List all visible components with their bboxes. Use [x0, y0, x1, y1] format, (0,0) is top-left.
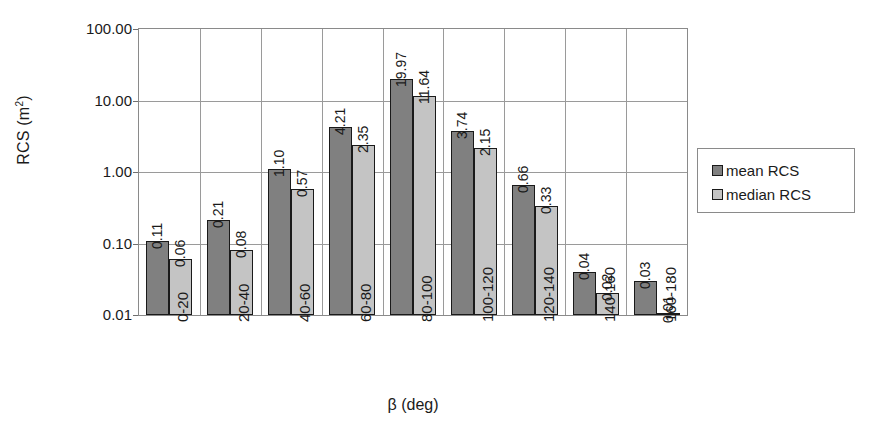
legend: mean RCSmedian RCS: [697, 148, 855, 213]
bar-mean[interactable]: [451, 131, 474, 315]
bar-mean[interactable]: [512, 185, 535, 315]
bar-mean[interactable]: [390, 79, 413, 315]
x-tick-label: 40-60: [297, 284, 312, 322]
y-axis-ticks: 100.0010.001.000.100.01: [52, 0, 132, 433]
bar-value-label: 0.66: [516, 166, 530, 193]
y-tickmark: [133, 172, 138, 173]
bar-group: 4.212.35: [322, 29, 383, 315]
y-tickmark: [133, 244, 138, 245]
bar-value-label: 0.06: [173, 240, 187, 267]
bar-mean[interactable]: [146, 241, 169, 315]
bar-value-label: 2.35: [356, 126, 370, 153]
rcs-bar-chart: RCS (m2) 100.0010.001.000.100.01 0.110.0…: [0, 0, 877, 433]
x-tick-label: 140-160: [602, 267, 617, 322]
bar-value-label: 11.64: [417, 70, 431, 104]
bar-mean[interactable]: [207, 220, 230, 315]
y-axis-title-text: RCS (m: [15, 107, 32, 165]
bar-value-label: 0.11: [150, 222, 164, 248]
x-tick-label: 60-80: [358, 284, 373, 322]
x-tick-label: 100-120: [480, 267, 495, 322]
y-tickmark: [133, 315, 138, 316]
bar-group: 0.210.08: [200, 29, 261, 315]
legend-label: median RCS: [726, 186, 811, 203]
y-tickmark: [133, 29, 138, 30]
x-tick-label: 160-180: [663, 267, 678, 322]
y-tick-label: 0.01: [58, 307, 132, 322]
y-tick-label: 1.00: [58, 164, 132, 179]
bar-value-label: 3.74: [455, 112, 469, 139]
bar-value-label: 0.04: [577, 253, 591, 280]
bar-group: 19.9711.64: [383, 29, 444, 315]
bar-value-label: 0.33: [539, 187, 553, 214]
y-tick-label: 100.00: [58, 21, 132, 36]
legend-item[interactable]: mean RCS: [712, 158, 854, 182]
bar-mean[interactable]: [268, 169, 291, 315]
bar-value-label: 2.15: [478, 129, 492, 156]
bar-value-label: 0.08: [234, 231, 248, 258]
x-tick-label: 0-20: [175, 292, 190, 322]
y-tickmark: [133, 101, 138, 102]
y-tick-label: 0.10: [58, 236, 132, 251]
x-axis-title: β (deg): [138, 396, 688, 414]
y-tick-label: 10.00: [58, 93, 132, 108]
y-axis-title: RCS (m2): [14, 65, 38, 195]
bar-value-label: 0.57: [295, 170, 309, 197]
legend-item[interactable]: median RCS: [712, 182, 854, 206]
bar-value-label: 4.21: [333, 108, 347, 135]
legend-label: mean RCS: [726, 162, 799, 179]
bar-value-label: 0.03: [638, 262, 652, 289]
y-axis-title-close: ): [15, 95, 32, 101]
bar-value-label: 19.97: [394, 52, 408, 87]
x-tick-label: 120-140: [541, 267, 556, 322]
bar-value-label: 0.21: [211, 201, 225, 228]
bar-value-label: 1.10: [272, 150, 286, 177]
x-tick-label: 80-100: [419, 275, 434, 322]
legend-swatch: [712, 165, 723, 176]
bar-group: 0.110.06: [139, 29, 200, 315]
legend-swatch: [712, 189, 723, 200]
x-tick-label: 20-40: [236, 284, 251, 322]
y-axis-title-exponent: 2: [14, 101, 25, 107]
bar-mean[interactable]: [329, 127, 352, 315]
bar-group: 1.100.57: [261, 29, 322, 315]
